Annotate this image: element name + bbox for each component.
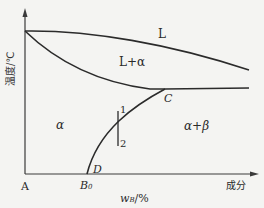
region-label-liquid-alpha: L+α bbox=[119, 56, 145, 68]
point-label-d: D bbox=[93, 164, 102, 175]
x-label-symbol: w bbox=[120, 192, 129, 205]
solvus-curve bbox=[87, 89, 165, 174]
point-label-c: C bbox=[164, 93, 172, 104]
x-axis-arrow-icon bbox=[250, 172, 259, 177]
origin-label-a: A bbox=[21, 181, 29, 192]
marker-label-2: 2 bbox=[120, 139, 126, 149]
region-label-alpha: α bbox=[56, 119, 64, 131]
b0-sub: 0 bbox=[88, 183, 92, 191]
x-axis-end-label: 成分 bbox=[226, 181, 246, 191]
point-label-b0: B0 bbox=[80, 180, 93, 191]
phase-diagram-canvas bbox=[0, 0, 264, 208]
x-axis-label: wB/% bbox=[120, 193, 149, 204]
b0-main: B bbox=[80, 179, 88, 192]
x-label-unit: /% bbox=[135, 192, 149, 205]
y-axis-arrow-icon bbox=[23, 8, 28, 17]
marker-label-1: 1 bbox=[120, 105, 126, 115]
region-label-alpha-beta: α+β bbox=[184, 120, 209, 132]
y-axis-label: 温度/℃ bbox=[2, 51, 17, 86]
region-label-liquid: L bbox=[158, 28, 166, 40]
